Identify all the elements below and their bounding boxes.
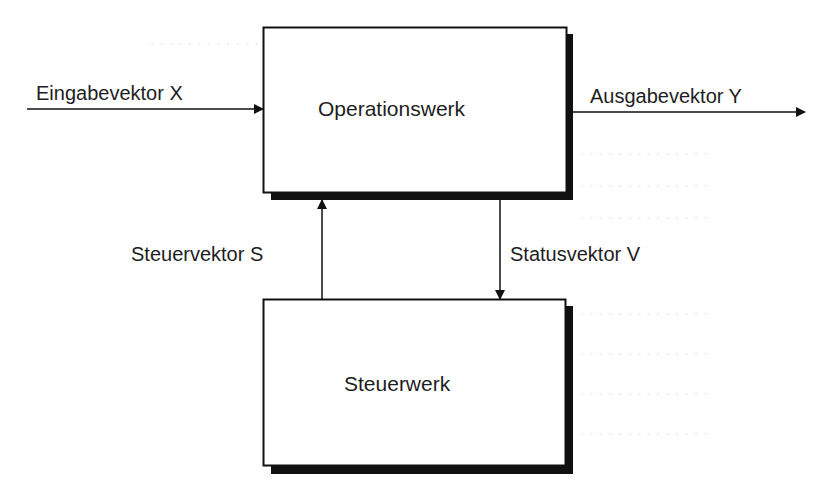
control-edge-label: Steuervektor S bbox=[131, 243, 263, 266]
diagram-canvas: . . . . . . . . . . . . . . . . . . . . … bbox=[0, 0, 825, 495]
operationswerk-label: Operationswerk bbox=[318, 97, 465, 121]
output-edge-label: Ausgabevektor Y bbox=[590, 85, 742, 108]
steuerwerk-label: Steuerwerk bbox=[344, 372, 450, 396]
diagram-graphics bbox=[0, 0, 825, 495]
input-edge-label: Eingabevektor X bbox=[36, 82, 183, 105]
status-edge-label: Statusvektor V bbox=[510, 243, 640, 266]
